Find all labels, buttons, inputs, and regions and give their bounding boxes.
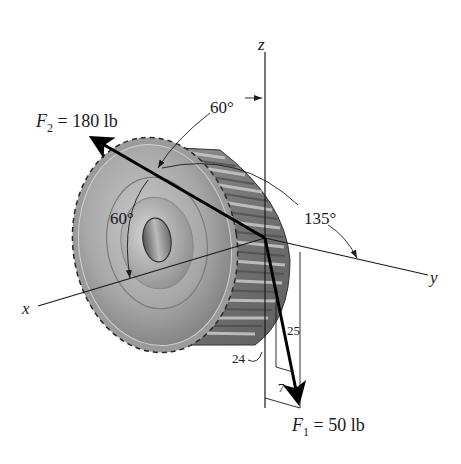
f1-value: = 50 lb [309, 415, 365, 435]
dim-7-label: 7 [278, 380, 285, 395]
dim-24-label: 24 [232, 351, 246, 366]
dim-25-label: 25 [287, 323, 300, 338]
angle-60-x-label: 60° [110, 209, 134, 228]
force-f2-label: F2 = 180 lb [35, 111, 118, 135]
force-f1-label: F1 = 50 lb [291, 415, 365, 439]
gear [59, 127, 290, 364]
force-diagram: z y x 60° 60° 135° 25 24 7 F2 = 180 lb F… [0, 0, 461, 464]
angle-60-z-label: 60° [210, 98, 234, 117]
axis-y-label: y [428, 268, 438, 287]
angle-135-y-label: 135° [304, 209, 336, 228]
axis-z-label: z [257, 35, 265, 54]
f2-value: = 180 lb [53, 111, 118, 131]
axis-x-label: x [21, 299, 30, 318]
